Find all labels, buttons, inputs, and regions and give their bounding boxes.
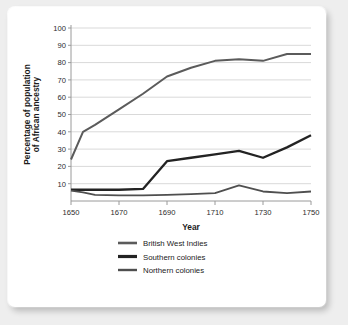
ytick-label: 50 [58, 110, 66, 119]
ytick-label: 70 [58, 76, 66, 85]
ytick-label: 100 [53, 24, 66, 33]
xtick-label: 1670 [111, 208, 128, 217]
screenshot-stage: 1020304050607080901001650167016901710173… [0, 0, 348, 325]
xtick-label: 1750 [303, 208, 320, 217]
xtick-label: 1730 [255, 208, 272, 217]
xtick-label: 1650 [63, 208, 80, 217]
ytick-label: 60 [58, 93, 66, 102]
x-axis-title: Year [182, 222, 200, 232]
ytick-label: 40 [58, 128, 66, 137]
xtick-label: 1690 [159, 208, 176, 217]
legend-label-2: Northern colonies [143, 266, 204, 275]
chart-svg: 1020304050607080901001650167016901710173… [8, 7, 326, 307]
ytick-label: 20 [58, 162, 66, 171]
chart-card: 1020304050607080901001650167016901710173… [8, 7, 326, 307]
y-axis-title-line2: of African ancestry [31, 76, 41, 152]
ytick-label: 10 [58, 180, 66, 189]
legend-label-1: Southern colonies [143, 253, 206, 262]
ytick-label: 30 [58, 145, 66, 154]
ytick-label: 90 [58, 41, 66, 50]
series-line-0 [71, 54, 311, 160]
ytick-label: 80 [58, 58, 66, 67]
xtick-label: 1710 [207, 208, 224, 217]
line-chart: 1020304050607080901001650167016901710173… [8, 7, 326, 307]
legend-label-0: British West Indies [143, 239, 208, 248]
series-line-1 [71, 135, 311, 189]
